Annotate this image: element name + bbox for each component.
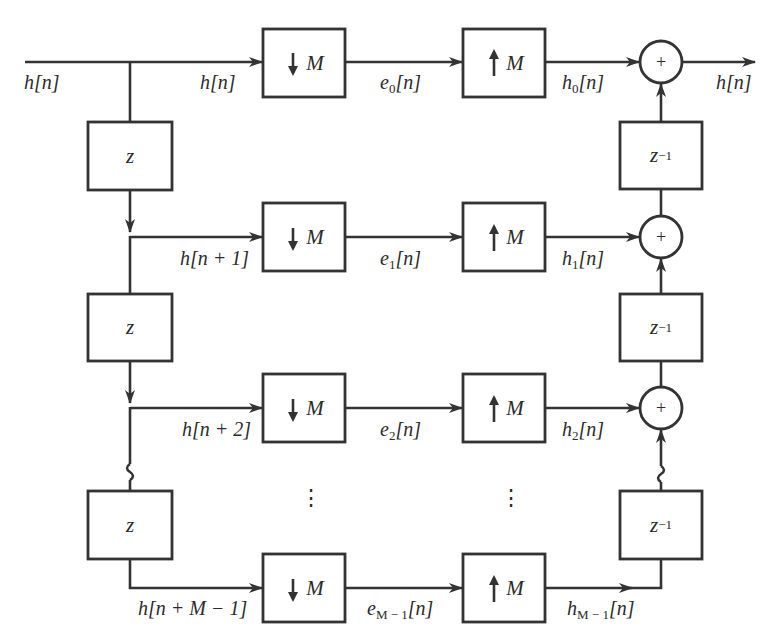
branch1-input-label: h[n + 1] bbox=[180, 248, 249, 268]
down-arrow-icons bbox=[288, 53, 298, 602]
h0-label: h0[n] bbox=[562, 72, 604, 95]
delay-box-3-label: z−1 bbox=[620, 491, 702, 559]
branch3-input-label: h[n + M − 1] bbox=[138, 598, 247, 618]
upsampler-1-label: M bbox=[500, 203, 530, 271]
advance-box-1-label: z bbox=[88, 122, 172, 190]
hM-1-label: hM − 1[n] bbox=[567, 598, 634, 621]
downsampler-0-label: M bbox=[300, 29, 330, 97]
h1-label: h1[n] bbox=[562, 248, 604, 271]
advance-box-2-label: z bbox=[88, 294, 172, 361]
upsampler-3-label: M bbox=[500, 554, 530, 622]
delay-box-2-label: z−1 bbox=[620, 294, 702, 361]
out-wire-3-up bbox=[625, 559, 661, 588]
e0-label: e0[n] bbox=[380, 72, 421, 95]
branch2-input-label: h[n + 2] bbox=[182, 419, 251, 439]
adder-0-plus: + bbox=[640, 41, 682, 83]
branch0-input-label: h[n] bbox=[200, 72, 236, 92]
downsampler-1-label: M bbox=[300, 203, 330, 271]
adder-1-plus: + bbox=[640, 216, 682, 258]
up-arrow-icons bbox=[489, 49, 499, 602]
advance-box-3-label: z bbox=[88, 491, 172, 559]
ellipsis-up: ⋮ bbox=[500, 494, 522, 501]
eM-1-label: eM − 1[n] bbox=[367, 598, 433, 621]
output-label: h[n] bbox=[716, 72, 752, 92]
delay-box-1-label: z−1 bbox=[620, 122, 702, 189]
break-mark-left bbox=[127, 464, 133, 480]
h2-label: h2[n] bbox=[562, 419, 604, 442]
ellipsis-down: ⋮ bbox=[300, 494, 322, 501]
tap-wire-6 bbox=[130, 559, 262, 588]
downsampler-3-label: M bbox=[300, 554, 330, 622]
e1-label: e1[n] bbox=[380, 248, 421, 271]
input-label: h[n] bbox=[24, 72, 60, 92]
upsampler-2-label: M bbox=[500, 374, 530, 442]
e2-label: e2[n] bbox=[380, 419, 421, 442]
break-mark-right bbox=[658, 466, 664, 482]
downsampler-2-label: M bbox=[300, 374, 330, 442]
adder-2-plus: + bbox=[640, 387, 682, 429]
upsampler-0-label: M bbox=[500, 29, 530, 97]
